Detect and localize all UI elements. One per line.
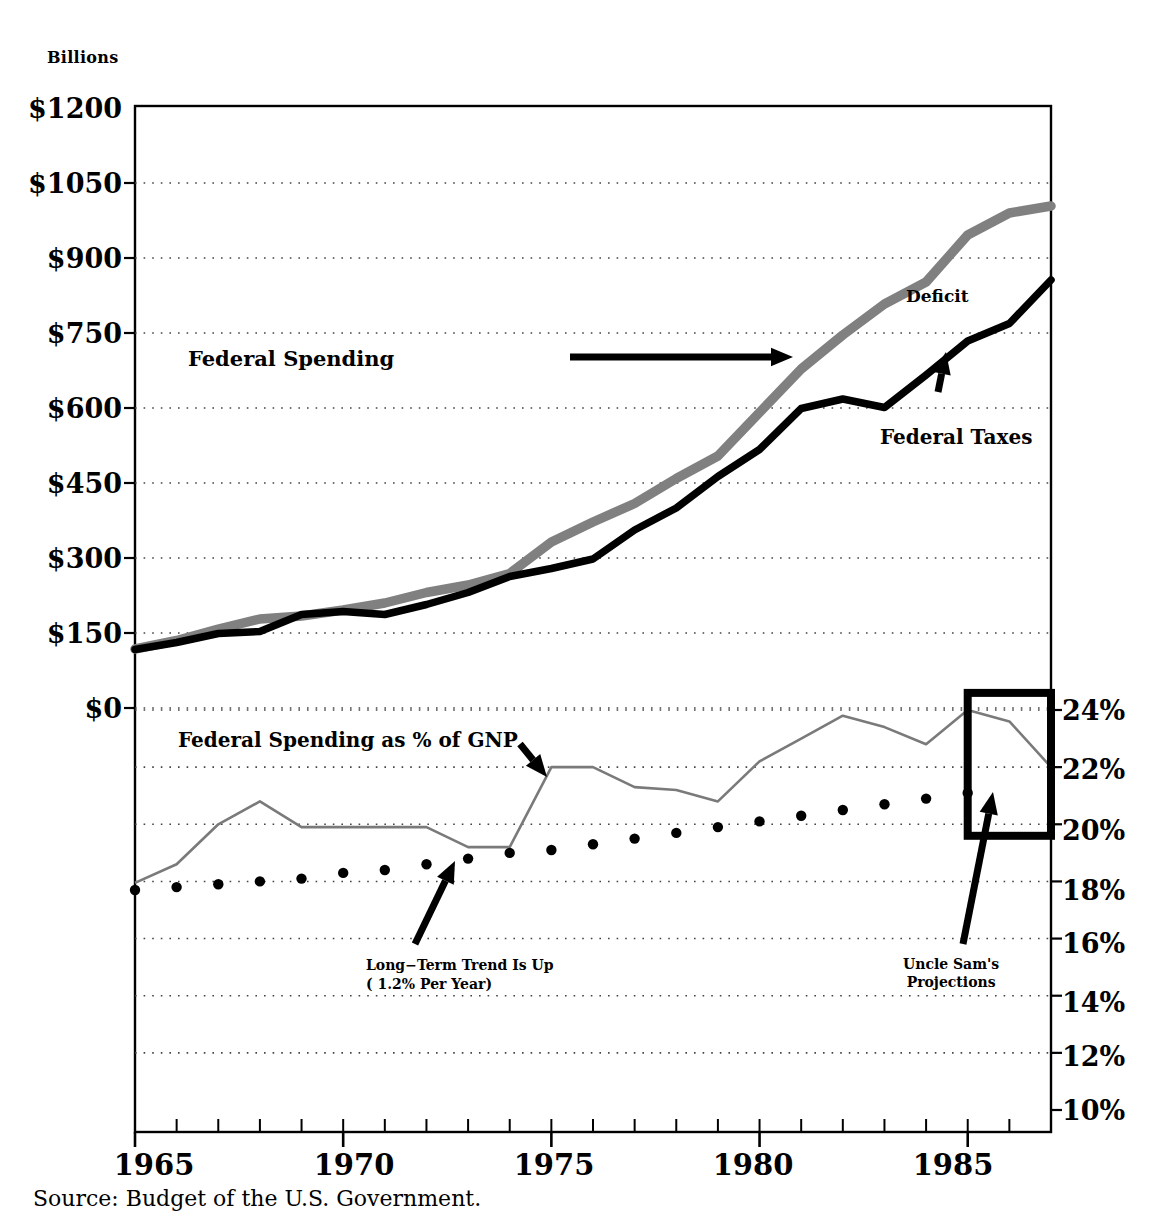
trend-dot — [505, 848, 515, 858]
series-federal-taxes — [135, 280, 1051, 650]
trend-dot — [338, 868, 348, 878]
annotation-long-term-trend: Long−Term Trend Is Up ( 1.2% Per Year) — [366, 956, 554, 994]
trend-dot — [213, 879, 223, 889]
trend-dot — [296, 873, 306, 883]
arrow-uncle-sams-projections-head — [980, 792, 998, 815]
trend-dot — [255, 876, 265, 886]
annotation-federal-spending: Federal Spending — [188, 346, 394, 371]
trend-dot — [671, 828, 681, 838]
annotation-trend-line2: ( 1.2% Per Year) — [366, 975, 554, 994]
arrow-long-term-trend-shaft — [415, 881, 445, 944]
chart-canvas: Billions $1200 $1050 $900 $750 $600 $450… — [0, 0, 1155, 1228]
trend-dot — [921, 793, 931, 803]
trend-dot — [796, 811, 806, 821]
arrow-federal-spending-head — [771, 348, 793, 366]
annotation-trend-line1: Long−Term Trend Is Up — [366, 956, 554, 975]
trend-dot — [879, 799, 889, 809]
arrow-gnp-share-shaft — [520, 744, 533, 760]
annotation-gnp-share: Federal Spending as % of GNP — [178, 728, 518, 752]
trend-dot — [463, 853, 473, 863]
annotation-federal-taxes: Federal Taxes — [880, 425, 1032, 449]
annotation-proj-line1: Uncle Sam's — [903, 956, 999, 974]
trend-dot — [130, 885, 140, 895]
plot-area — [0, 0, 1155, 1228]
trend-dot — [171, 882, 181, 892]
annotation-deficit: Deficit — [906, 286, 969, 306]
trend-dot — [629, 833, 639, 843]
trend-dot — [421, 859, 431, 869]
annotation-proj-line2: Projections — [903, 974, 999, 992]
trend-dot — [838, 805, 848, 815]
annotation-uncle-sams-projections: Uncle Sam's Projections — [903, 956, 999, 991]
trend-dot — [754, 816, 764, 826]
trend-dot — [588, 839, 598, 849]
trend-dot — [380, 865, 390, 875]
trend-dot — [546, 845, 556, 855]
trend-dot — [713, 822, 723, 832]
source-note: Source: Budget of the U.S. Government. — [33, 1186, 481, 1211]
arrow-federal-taxes-shaft — [938, 374, 942, 392]
